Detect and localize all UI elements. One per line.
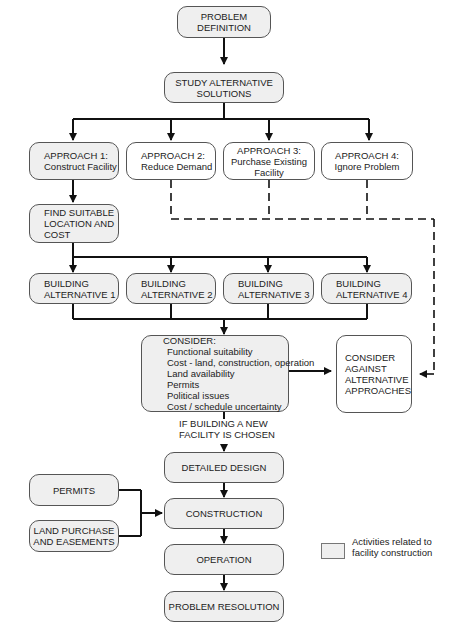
consider-item: Cost - land, construction, operation — [163, 357, 314, 368]
node-text: AGAINST — [345, 363, 387, 374]
node-text: Facility — [254, 167, 284, 178]
legend-label: Activities related to facility construct… — [352, 536, 432, 558]
node-text: APPROACHES — [345, 385, 411, 396]
node-text: DEFINITION — [197, 22, 251, 33]
node-consider-against: CONSIDER AGAINST ALTERNATIVE APPROACHES — [336, 335, 412, 413]
node-problem-resolution: PROBLEM RESOLUTION — [164, 591, 284, 622]
node-permits: PERMITS — [29, 474, 119, 506]
node-text: ALTERNATIVE 1 — [44, 289, 115, 300]
node-text: APPROACH 4: — [335, 150, 399, 161]
node-text: FIND SUITABLE — [44, 207, 114, 218]
node-text: ALTERNATIVE — [345, 374, 409, 385]
node-approach-2: APPROACH 2: Reduce Demand — [126, 142, 216, 180]
node-building-alt-3: BUILDING ALTERNATIVE 3 — [223, 273, 314, 304]
node-text: OPERATION — [196, 554, 251, 565]
node-text: COST — [44, 229, 70, 240]
node-text: APPROACH 3: — [237, 145, 301, 156]
node-text: CONSIDER — [345, 352, 395, 363]
node-text: ALTERNATIVE 3 — [238, 289, 309, 300]
node-land-purchase: LAND PURCHASE AND EASEMENTS — [29, 520, 119, 552]
edge-label-text: FACILITY IS CHOSEN — [179, 429, 275, 440]
consider-item: Functional suitability — [163, 346, 253, 357]
node-construction: CONSTRUCTION — [164, 498, 284, 529]
node-text: DETAILED DESIGN — [182, 462, 267, 473]
consider-title: CONSIDER: — [163, 335, 216, 346]
node-text: PERMITS — [53, 485, 95, 496]
node-text: BUILDING — [238, 278, 283, 289]
node-building-alt-1: BUILDING ALTERNATIVE 1 — [29, 273, 119, 304]
node-text: SOLUTIONS — [197, 88, 252, 99]
node-building-alt-2: BUILDING ALTERNATIVE 2 — [126, 273, 216, 304]
node-text: AND EASEMENTS — [33, 536, 114, 547]
node-text: CONSTRUCTION — [186, 508, 263, 519]
node-approach-3: APPROACH 3: Purchase Existing Facility — [223, 142, 315, 180]
edge-label-text: IF BUILDING A NEW — [179, 418, 275, 429]
consider-item: Cost / schedule uncertainty — [163, 401, 282, 412]
node-operation: OPERATION — [164, 544, 284, 575]
node-text: LOCATION AND — [44, 218, 114, 229]
node-text: LAND PURCHASE — [34, 525, 115, 536]
node-approach-1: APPROACH 1: Construct Facility — [29, 142, 119, 180]
node-text: ALTERNATIVE 4 — [336, 289, 407, 300]
node-detailed-design: DETAILED DESIGN — [164, 452, 284, 483]
node-text: Purchase Existing — [231, 156, 307, 167]
consider-item: Political issues — [163, 390, 229, 401]
node-text: APPROACH 1: — [44, 150, 108, 161]
node-text: PROBLEM — [201, 11, 247, 22]
node-text: BUILDING — [141, 278, 186, 289]
legend-text: Activities related to — [352, 536, 432, 547]
node-text: STUDY ALTERNATIVE — [175, 77, 273, 88]
node-text: APPROACH 2: — [141, 150, 205, 161]
node-text: Ignore Problem — [335, 161, 400, 172]
consider-item: Land availability — [163, 368, 235, 379]
node-text: PROBLEM RESOLUTION — [169, 601, 280, 612]
node-text: Construct Facility — [44, 161, 117, 172]
node-consider: CONSIDER: Functional suitability Cost - … — [141, 335, 289, 412]
legend-swatch — [321, 543, 345, 559]
node-text: BUILDING — [44, 278, 89, 289]
node-building-alt-4: BUILDING ALTERNATIVE 4 — [321, 273, 412, 304]
node-approach-4: APPROACH 4: Ignore Problem — [321, 142, 413, 180]
node-find-location: FIND SUITABLE LOCATION AND COST — [29, 204, 119, 243]
legend-text: facility construction — [352, 547, 432, 558]
node-problem-definition: PROBLEM DEFINITION — [177, 6, 271, 38]
node-text: ALTERNATIVE 2 — [141, 289, 212, 300]
node-study-alternatives: STUDY ALTERNATIVE SOLUTIONS — [164, 72, 284, 103]
edge-label-new-facility: IF BUILDING A NEW FACILITY IS CHOSEN — [179, 418, 275, 440]
consider-item: Permits — [163, 379, 199, 390]
node-text: Reduce Demand — [141, 161, 212, 172]
node-text: BUILDING — [336, 278, 381, 289]
